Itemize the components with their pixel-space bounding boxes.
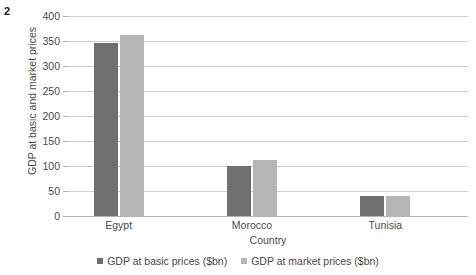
y-tick-label: 350 [42, 35, 60, 47]
bar-egypt-series-0 [94, 43, 118, 217]
y-tick-label: 200 [42, 110, 60, 122]
y-tick-label: 150 [42, 135, 60, 147]
y-tick-mark [63, 41, 68, 42]
figure-number: 2 [4, 5, 10, 17]
x-tick-label-tunisia: Tunisia [369, 219, 402, 231]
y-tick-mark [63, 141, 68, 142]
y-tick-mark [63, 16, 68, 17]
legend-swatch-icon [241, 258, 247, 264]
x-tick-label-morocco: Morocco [232, 219, 272, 231]
x-tick-label-egypt: Egypt [105, 219, 132, 231]
y-tick-mark [63, 66, 68, 67]
legend-item-0[interactable]: GDP at basic prices ($bn) [97, 255, 227, 267]
x-axis-line [68, 216, 468, 217]
bar-morocco-series-1 [253, 160, 277, 216]
legend-label: GDP at market prices ($bn) [251, 255, 379, 267]
bar-egypt-series-1 [120, 35, 144, 217]
y-tick-label: 100 [42, 160, 60, 172]
y-tick-mark [63, 216, 68, 217]
y-tick-label: 0 [54, 210, 60, 222]
y-tick-label: 50 [48, 185, 60, 197]
chart-legend: GDP at basic prices ($bn)GDP at market p… [0, 255, 476, 267]
legend-item-1[interactable]: GDP at market prices ($bn) [241, 255, 379, 267]
y-axis-title: GDP at basic and market prices [26, 6, 38, 196]
bar-tunisia-series-0 [360, 196, 384, 216]
y-tick-mark [63, 191, 68, 192]
y-tick-label: 300 [42, 60, 60, 72]
y-tick-label: 400 [42, 10, 60, 22]
y-tick-mark [63, 116, 68, 117]
y-tick-mark [63, 91, 68, 92]
gridline [68, 16, 468, 17]
plot-area: 050100150200250300350400EgyptMoroccoTuni… [68, 16, 468, 216]
x-axis-title: Country [68, 234, 468, 246]
bar-morocco-series-0 [227, 166, 251, 216]
y-tick-label: 250 [42, 85, 60, 97]
y-tick-mark [63, 166, 68, 167]
bar-tunisia-series-1 [386, 196, 410, 217]
legend-label: GDP at basic prices ($bn) [107, 255, 227, 267]
legend-swatch-icon [97, 258, 103, 264]
